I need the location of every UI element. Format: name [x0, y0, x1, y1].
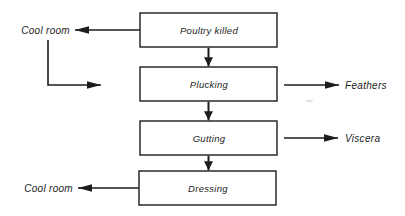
poultry-flowchart: Poultry killed Plucking Gutting Dressing… [0, 0, 405, 216]
label-viscera: Viscera [345, 133, 380, 144]
process-box-plucking: Plucking [140, 67, 277, 101]
process-box-poultry-killed: Poultry killed [140, 13, 277, 47]
label-feathers: Feathers [345, 80, 387, 91]
process-box-gutting: Gutting [140, 121, 277, 155]
box-label-poultry-killed: Poultry killed [180, 25, 238, 36]
process-box-dressing: Dressing [139, 171, 276, 205]
box-label-gutting: Gutting [193, 133, 226, 144]
scan-artifact-dash [306, 100, 313, 102]
label-cool-room-bottom: Cool room [24, 183, 73, 194]
box-label-dressing: Dressing [188, 183, 228, 194]
arrow-cool-room-elbow [48, 40, 101, 85]
box-label-plucking: Plucking [190, 79, 229, 90]
flowchart-canvas: Poultry killed Plucking Gutting Dressing… [0, 0, 405, 216]
label-cool-room-top: Cool room [21, 25, 70, 36]
